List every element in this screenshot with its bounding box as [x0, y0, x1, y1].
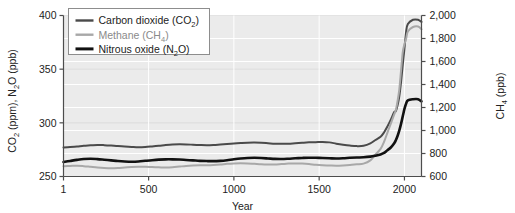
chart-legend: Carbon dioxide (CO2)Methane (CH4)Nitrous…	[69, 9, 210, 58]
x-tick-1000: 1000	[222, 183, 246, 195]
y-tick-right-1,400: 1,400	[430, 78, 456, 90]
chart-canvas: 2503003504006008001,0001,2001,4001,6001,…	[0, 0, 515, 213]
y-tick-right-1,000: 1,000	[430, 124, 456, 136]
x-axis-label: Year	[232, 200, 254, 212]
y-tick-left-400: 400	[39, 9, 57, 21]
y-tick-right-2,000: 2,000	[430, 9, 456, 21]
y-tick-left-250: 250	[39, 170, 57, 182]
x-tick-1500: 1500	[307, 183, 331, 195]
y-tick-right-800: 800	[430, 147, 448, 159]
x-tick-2000: 2000	[393, 183, 417, 195]
y-tick-left-300: 300	[39, 117, 57, 129]
y-tick-right-1,200: 1,200	[430, 101, 456, 113]
y-tick-right-1,800: 1,800	[430, 32, 456, 44]
y-tick-right-600: 600	[430, 170, 448, 182]
x-tick-500: 500	[140, 183, 158, 195]
greenhouse-gas-concentration-chart: 2503003504006008001,0001,2001,4001,6001,…	[0, 0, 515, 213]
y-tick-right-1,600: 1,600	[430, 55, 456, 67]
y-tick-left-350: 350	[39, 63, 57, 75]
x-tick-1: 1	[61, 183, 67, 195]
